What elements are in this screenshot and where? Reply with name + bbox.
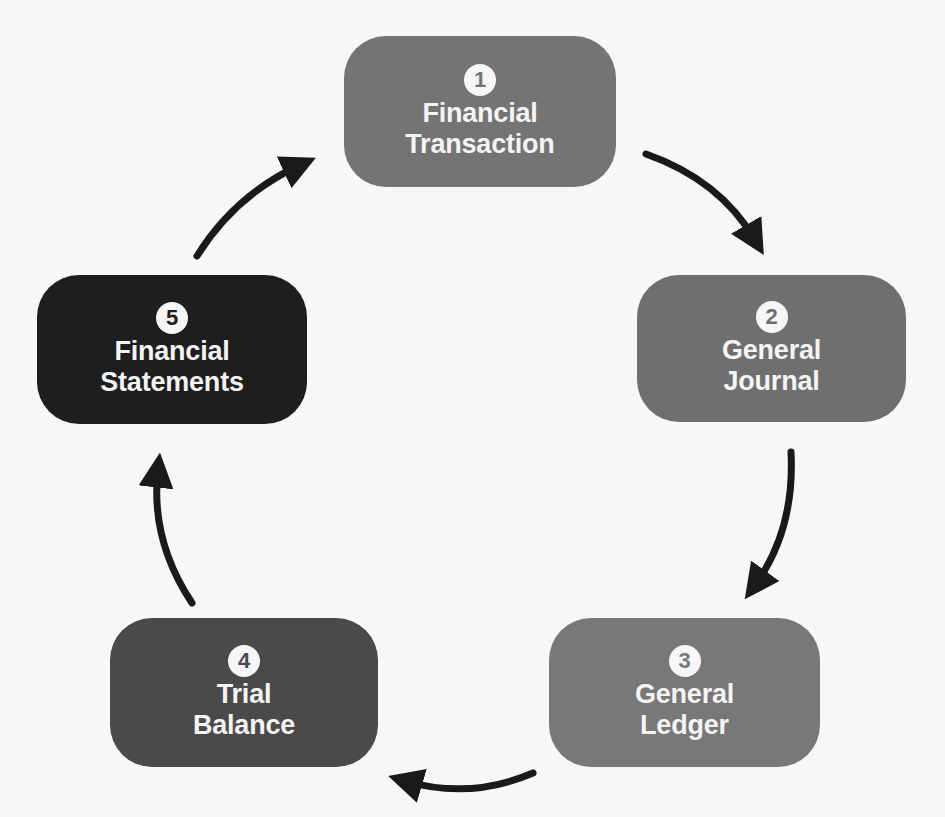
step-general-ledger: 3 General Ledger — [549, 618, 820, 767]
step-label-line2: Statements — [100, 367, 244, 398]
step-label-line1: Financial — [114, 336, 229, 367]
arrow-4-to-5-icon — [157, 470, 192, 603]
step-label-line1: Financial — [422, 98, 537, 129]
step-number: 4 — [238, 648, 250, 674]
step-label-line1: General — [635, 679, 734, 710]
step-general-journal: 2 General Journal — [637, 275, 906, 422]
step-label-line2: Balance — [193, 710, 295, 741]
arrow-1-to-2-icon — [646, 154, 755, 240]
step-number: 1 — [474, 67, 486, 93]
arrow-2-to-3-icon — [755, 452, 791, 585]
step-label-line2: Journal — [723, 366, 819, 397]
step-label-line1: General — [722, 335, 821, 366]
step-number: 2 — [765, 304, 777, 330]
step-label-line2: Transaction — [405, 129, 554, 160]
accounting-cycle-diagram: 1 Financial Transaction 2 General Journa… — [0, 0, 945, 817]
step-number-badge: 1 — [464, 64, 496, 96]
step-number: 3 — [678, 648, 690, 674]
step-trial-balance: 4 Trial Balance — [110, 618, 378, 767]
step-label-line2: Ledger — [640, 710, 729, 741]
arrow-5-to-1-icon — [197, 165, 300, 256]
step-number-badge: 2 — [756, 301, 788, 333]
step-financial-statements: 5 Financial Statements — [37, 275, 307, 424]
step-number: 5 — [166, 305, 178, 331]
arrow-3-to-4-icon — [405, 773, 533, 789]
step-label-line1: Trial — [217, 679, 272, 710]
step-number-badge: 5 — [156, 302, 188, 334]
step-number-badge: 3 — [669, 645, 701, 677]
step-number-badge: 4 — [228, 645, 260, 677]
step-financial-transaction: 1 Financial Transaction — [344, 36, 616, 187]
